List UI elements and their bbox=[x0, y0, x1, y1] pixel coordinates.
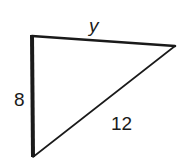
label-y: y bbox=[87, 15, 100, 36]
triangle-diagram: y 8 12 bbox=[0, 0, 182, 167]
side-left bbox=[32, 35, 33, 157]
label-12: 12 bbox=[111, 113, 132, 134]
label-8: 8 bbox=[14, 89, 25, 110]
